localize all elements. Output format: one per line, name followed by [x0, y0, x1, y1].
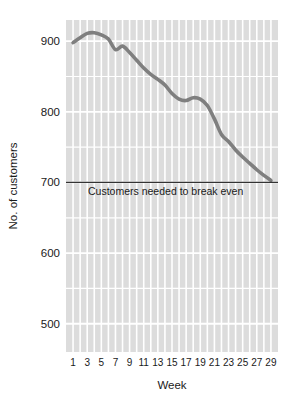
x-tick-label: 21: [209, 357, 221, 368]
x-tick-label: 23: [223, 357, 235, 368]
x-tick-label: 27: [251, 357, 263, 368]
x-axis-tick-labels: 1357911131517192123252729: [70, 357, 277, 368]
x-tick-label: 19: [195, 357, 207, 368]
x-tick-label: 25: [237, 357, 249, 368]
x-tick-label: 29: [265, 357, 277, 368]
y-tick-label: 900: [41, 35, 60, 47]
x-tick-label: 13: [152, 357, 164, 368]
y-tick-label: 600: [41, 247, 60, 259]
x-tick-label: 1: [70, 357, 76, 368]
y-tick-label: 700: [41, 176, 60, 188]
x-axis-title: Week: [157, 379, 186, 391]
y-axis-title: No. of customers: [7, 142, 19, 229]
x-tick-label: 15: [166, 357, 178, 368]
x-tick-label: 9: [127, 357, 133, 368]
x-tick-label: 5: [99, 357, 105, 368]
line-chart: 500600700800900 135791113151719212325272…: [0, 0, 294, 412]
x-tick-label: 7: [113, 357, 119, 368]
x-tick-label: 11: [139, 357, 150, 368]
x-tick-label: 3: [84, 357, 90, 368]
y-tick-label: 800: [41, 106, 60, 118]
break-even-label: Customers needed to break even: [88, 185, 243, 197]
y-tick-label: 500: [41, 318, 60, 330]
x-tick-label: 17: [181, 357, 193, 368]
